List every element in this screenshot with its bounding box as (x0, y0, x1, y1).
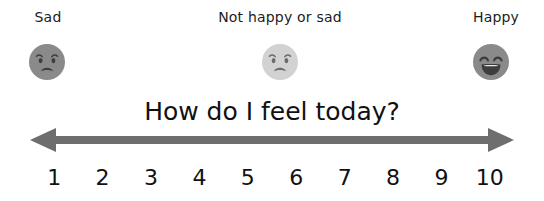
happy-face-icon (472, 43, 510, 81)
scale-number-9[interactable]: 9 (417, 167, 465, 189)
sad-face-icon (28, 43, 66, 81)
anchor-label-neutral: Not happy or sad (200, 9, 360, 25)
double-headed-arrow (30, 125, 514, 155)
scale-number-5[interactable]: 5 (224, 167, 272, 189)
scale-number-6[interactable]: 6 (272, 167, 320, 189)
scale-numbers: 1 2 3 4 5 6 7 8 9 10 (30, 160, 514, 196)
scale-number-2[interactable]: 2 (78, 167, 126, 189)
scale-number-10[interactable]: 10 (466, 167, 514, 189)
scale-number-3[interactable]: 3 (127, 167, 175, 189)
scale-number-1[interactable]: 1 (30, 167, 78, 189)
mood-rating-scale: Sad Not happy or sad Happy (0, 0, 544, 201)
page-title: How do I feel today? (0, 97, 544, 126)
scale-number-4[interactable]: 4 (175, 167, 223, 189)
anchor-label-happy: Happy (448, 9, 544, 25)
scale-number-7[interactable]: 7 (320, 167, 368, 189)
anchor-label-sad: Sad (0, 9, 96, 25)
scale-number-8[interactable]: 8 (369, 167, 417, 189)
neutral-face-icon (261, 43, 299, 81)
